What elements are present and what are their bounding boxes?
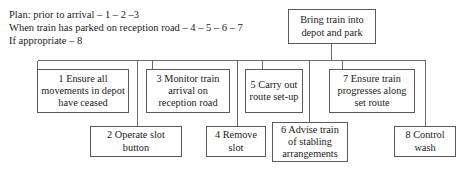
diagram-canvas: Plan: prior to arrival – 1 – 2 –3 When t… bbox=[0, 0, 476, 178]
node-root[interactable]: Bring train into depot and park bbox=[288, 9, 376, 44]
node-5-label: 5 Carry out route set-up bbox=[249, 79, 299, 104]
node-7[interactable]: 7 Ensure train progresses along set rout… bbox=[329, 69, 415, 113]
node-root-label: Bring train into depot and park bbox=[292, 14, 372, 39]
node-7-label: 7 Ensure train progresses along set rout… bbox=[333, 73, 411, 110]
node-3[interactable]: 3 Monitor train arrival on reception roa… bbox=[146, 69, 230, 113]
node-4-label: 4 Remove slot bbox=[210, 129, 262, 154]
node-1[interactable]: 1 Ensure all movements in depot have cea… bbox=[37, 69, 129, 113]
node-6-label: 6 Advise train of stabling arrangements bbox=[276, 124, 344, 161]
node-8-label: 8 Control wash bbox=[398, 129, 452, 154]
node-8[interactable]: 8 Control wash bbox=[394, 126, 456, 157]
node-2[interactable]: 2 Operate slot button bbox=[90, 126, 182, 157]
node-6[interactable]: 6 Advise train of stabling arrangements bbox=[272, 122, 348, 162]
node-1-label: 1 Ensure all movements in depot have cea… bbox=[41, 73, 125, 110]
node-3-label: 3 Monitor train arrival on reception roa… bbox=[150, 73, 226, 110]
node-2-label: 2 Operate slot button bbox=[94, 129, 178, 154]
node-5[interactable]: 5 Carry out route set-up bbox=[245, 69, 303, 113]
node-4[interactable]: 4 Remove slot bbox=[206, 126, 266, 157]
